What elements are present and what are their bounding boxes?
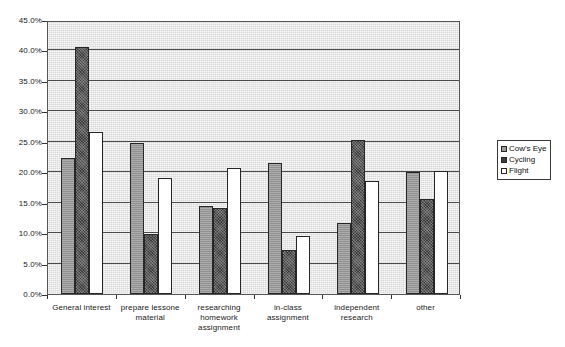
x-tick-mark xyxy=(47,295,48,299)
x-axis-label: General interest xyxy=(47,303,116,313)
y-tick-label: 35.0% xyxy=(19,78,42,86)
y-axis: 45.0%40.0%35.0%30.0%25.0%20.0%15.0%10.0%… xyxy=(0,0,46,347)
x-tick-mark xyxy=(391,295,392,299)
legend-item: Cow's Eye xyxy=(501,143,547,154)
x-axis-label: in-class assignment xyxy=(254,303,323,323)
legend: Cow's EyeCyclingFlight xyxy=(497,140,551,180)
bar xyxy=(61,158,75,294)
bar-group xyxy=(392,22,461,294)
x-tick-mark xyxy=(254,295,255,299)
bar-groups xyxy=(48,22,459,294)
x-tick-mark xyxy=(322,295,323,299)
x-tick-mark xyxy=(460,295,461,299)
y-tick-label: 25.0% xyxy=(19,139,42,147)
bar xyxy=(227,168,241,294)
bar xyxy=(337,223,351,294)
y-tick-label: 30.0% xyxy=(19,108,42,116)
legend-label: Cycling xyxy=(509,155,535,164)
x-tick-mark xyxy=(116,295,117,299)
legend-rows: Cow's EyeCyclingFlight xyxy=(501,143,547,176)
y-tick-label: 15.0% xyxy=(19,200,42,208)
x-axis-label: prepare lessone material xyxy=(116,303,185,323)
bar xyxy=(144,234,158,294)
bar xyxy=(434,171,448,294)
bar xyxy=(268,163,282,294)
bar xyxy=(130,143,144,294)
bar-group xyxy=(255,22,324,294)
bar xyxy=(420,199,434,294)
bar xyxy=(351,140,365,294)
legend-label: Flight xyxy=(509,166,529,175)
legend-swatch-icon xyxy=(501,146,507,152)
y-tick-label: 20.0% xyxy=(19,169,42,177)
y-tick-label: 45.0% xyxy=(19,17,42,25)
bar xyxy=(75,47,89,294)
bar xyxy=(282,250,296,294)
x-axis-labels: General interestprepare lessone material… xyxy=(47,303,460,347)
bar xyxy=(213,208,227,294)
bar xyxy=(406,172,420,294)
x-axis-label: independent research xyxy=(322,303,391,323)
bar-group xyxy=(323,22,392,294)
legend-swatch-icon xyxy=(501,168,507,174)
y-tick-label: 40.0% xyxy=(19,47,42,55)
bar-chart: 45.0%40.0%35.0%30.0%25.0%20.0%15.0%10.0%… xyxy=(0,0,565,347)
plot-area xyxy=(47,21,460,295)
x-tick-mark xyxy=(185,295,186,299)
bar-group xyxy=(186,22,255,294)
x-axis-label: researching homework assignment xyxy=(185,303,254,333)
bar xyxy=(158,178,172,294)
y-tick-label: 10.0% xyxy=(19,230,42,238)
legend-swatch-icon xyxy=(501,157,507,163)
x-axis-label: other xyxy=(391,303,460,313)
bar xyxy=(89,132,103,294)
y-tick-label: 5.0% xyxy=(23,261,42,269)
bar-group xyxy=(48,22,117,294)
legend-item: Flight xyxy=(501,165,547,176)
bar-group xyxy=(117,22,186,294)
bar xyxy=(296,236,310,294)
bar xyxy=(199,206,213,294)
legend-label: Cow's Eye xyxy=(509,144,547,153)
bar xyxy=(365,181,379,294)
y-tick-label: 0.0% xyxy=(23,291,42,299)
legend-item: Cycling xyxy=(501,154,547,165)
